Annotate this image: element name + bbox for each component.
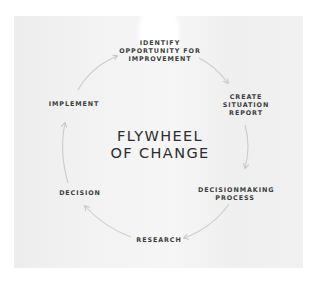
node-label-line: IDENTIFY bbox=[118, 39, 202, 47]
arrow-decision-to-implement bbox=[63, 123, 68, 183]
node-label-line: OPPORTUNITY FOR bbox=[118, 47, 202, 55]
node-label-line: SITUATION bbox=[215, 101, 277, 109]
node-decisionmaking-process: DECISIONMAKING PROCESS bbox=[198, 186, 272, 202]
node-create-situation-report: CREATE SITUATION REPORT bbox=[215, 93, 277, 118]
node-research: RESEARCH bbox=[131, 236, 187, 244]
title-line: FLYWHEEL bbox=[100, 128, 220, 145]
node-label-line: RESEARCH bbox=[131, 236, 187, 244]
node-label-line: DECISIONMAKING bbox=[198, 186, 272, 194]
diagram-title: FLYWHEEL OF CHANGE bbox=[100, 128, 220, 162]
arrow-report-to-decisionmaking bbox=[245, 125, 248, 168]
node-label-line: CREATE bbox=[215, 93, 277, 101]
node-identify-opportunity: IDENTIFY OPPORTUNITY FOR IMPROVEMENT bbox=[118, 39, 202, 64]
arrow-identify-to-report bbox=[199, 58, 228, 83]
node-implement: IMPLEMENT bbox=[46, 100, 102, 108]
title-line: OF CHANGE bbox=[100, 145, 220, 162]
node-label-line: PROCESS bbox=[198, 194, 272, 202]
node-label-line: IMPROVEMENT bbox=[118, 55, 202, 63]
node-label-line: DECISION bbox=[56, 189, 104, 197]
arrow-research-to-decision bbox=[85, 206, 131, 237]
arrow-decisionmaking-to-research bbox=[184, 204, 229, 238]
node-label-line: REPORT bbox=[215, 109, 277, 117]
node-label-line: IMPLEMENT bbox=[46, 100, 102, 108]
node-decision: DECISION bbox=[56, 189, 104, 197]
arrow-implement-to-identify bbox=[78, 56, 117, 90]
